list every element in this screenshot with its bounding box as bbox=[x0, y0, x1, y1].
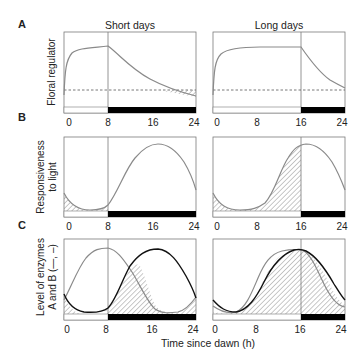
xticks-a-left: 0 8 16 24 bbox=[66, 117, 200, 128]
svg-text:8: 8 bbox=[103, 324, 109, 335]
figure: Short days Long days A B C Floral regula… bbox=[0, 0, 362, 361]
svg-text:16: 16 bbox=[147, 117, 159, 128]
xlabel-time-since-dawn: Time since dawn (h) bbox=[161, 337, 255, 349]
ylabel-responsiveness-line1: Responsiveness bbox=[35, 140, 46, 213]
svg-text:16: 16 bbox=[294, 324, 306, 335]
svg-text:8: 8 bbox=[254, 117, 260, 128]
svg-text:8: 8 bbox=[254, 221, 260, 232]
svg-text:8: 8 bbox=[253, 324, 259, 335]
xticks-b-left: 0 8 16 24 bbox=[66, 221, 200, 232]
svg-text:16: 16 bbox=[147, 221, 159, 232]
column-title-long-days: Long days bbox=[255, 19, 303, 31]
svg-text:16: 16 bbox=[295, 117, 307, 128]
panel-b-short-days bbox=[64, 137, 196, 217]
panel-letter-a: A bbox=[18, 18, 26, 30]
svg-text:0: 0 bbox=[214, 117, 220, 128]
ylabel-enzymes-line1: Level of enzymes bbox=[35, 238, 46, 316]
xticks-a-right: 0 8 16 24 bbox=[214, 117, 348, 128]
svg-text:8: 8 bbox=[105, 221, 111, 232]
ylabel-responsiveness-line2: to light bbox=[47, 162, 58, 192]
svg-text:0: 0 bbox=[66, 221, 72, 232]
svg-text:24: 24 bbox=[188, 221, 200, 232]
svg-text:0: 0 bbox=[64, 324, 70, 335]
xticks-c-right: 0 8 16 24 bbox=[212, 324, 347, 335]
svg-text:24: 24 bbox=[187, 324, 199, 335]
ylabel-floral-regulator: Floral regulator bbox=[46, 38, 57, 106]
svg-text:0: 0 bbox=[66, 117, 72, 128]
panel-a-short-days bbox=[64, 32, 196, 113]
svg-text:8: 8 bbox=[105, 117, 111, 128]
svg-text:16: 16 bbox=[146, 324, 158, 335]
svg-text:0: 0 bbox=[212, 324, 218, 335]
svg-text:24: 24 bbox=[188, 117, 200, 128]
ylabel-enzymes-line2: A and B (—, –) bbox=[47, 244, 58, 310]
panel-letter-c: C bbox=[18, 219, 26, 231]
column-title-short-days: Short days bbox=[105, 19, 155, 31]
panel-a-long-days bbox=[213, 32, 345, 113]
panel-letter-b: B bbox=[18, 111, 26, 123]
xticks-c-left: 0 8 16 24 bbox=[64, 324, 199, 335]
svg-text:24: 24 bbox=[335, 324, 347, 335]
svg-text:16: 16 bbox=[295, 221, 307, 232]
panel-c-short-days bbox=[64, 239, 196, 320]
panel-c-long-days bbox=[213, 239, 345, 320]
svg-text:24: 24 bbox=[336, 221, 348, 232]
svg-text:0: 0 bbox=[214, 221, 220, 232]
panel-b-long-days bbox=[213, 137, 345, 217]
xticks-b-right: 0 8 16 24 bbox=[214, 221, 348, 232]
svg-text:24: 24 bbox=[336, 117, 348, 128]
